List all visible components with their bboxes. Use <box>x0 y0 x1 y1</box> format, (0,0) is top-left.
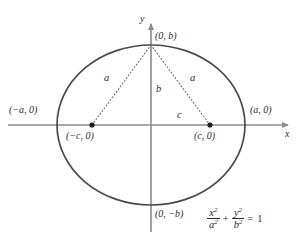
equation-rhs: 1 <box>256 213 263 224</box>
fraction-x-denominator: a2 <box>207 218 220 230</box>
equals-operator: = <box>246 213 254 224</box>
y-denominator-exponent: 2 <box>239 218 242 225</box>
right-focus-point <box>207 122 212 127</box>
fraction-y-term: y2 b2 <box>232 207 245 230</box>
label-segment-b: b <box>156 84 161 95</box>
label-segment-c: c <box>177 110 182 121</box>
ellipse-equation: x2 a2 + y2 b2 = 1 <box>207 207 264 230</box>
fraction-x-term: x2 a2 <box>207 207 220 230</box>
label-left-vertex: (−a, 0) <box>9 105 37 115</box>
ellipse-figure: (0, b) (0, −b) (−a, 0) (a, 0) (−c, 0) (c… <box>0 0 305 244</box>
label-top-vertex: (0, b) <box>155 31 177 41</box>
label-left-focus: (−c, 0) <box>66 131 94 141</box>
x-numerator-exponent: 2 <box>214 206 217 213</box>
y-numerator-exponent: 2 <box>239 206 242 213</box>
label-segment-a-right: a <box>190 73 195 84</box>
label-axis-x: x <box>285 129 289 139</box>
fraction-y-denominator: b2 <box>232 218 245 230</box>
label-segment-a-left: a <box>104 73 109 84</box>
label-bottom-vertex: (0, −b) <box>155 209 183 219</box>
fraction-y-numerator: y2 <box>232 207 244 218</box>
label-axis-y: y <box>140 14 144 24</box>
plus-operator: + <box>222 213 230 224</box>
x-denominator-exponent: 2 <box>214 218 217 225</box>
label-right-focus: (c, 0) <box>194 131 215 141</box>
fraction-x-numerator: x2 <box>207 207 219 218</box>
left-focus-point <box>89 122 94 127</box>
label-right-vertex: (a, 0) <box>250 105 272 115</box>
